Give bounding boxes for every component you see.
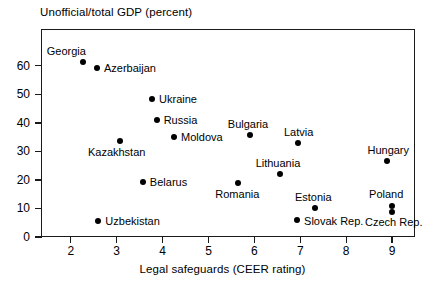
- x-axis-tick-label: 9: [377, 245, 407, 257]
- x-axis-tick-label: 8: [331, 245, 361, 257]
- chart-figure: Unofficial/total GDP (percent) 010203040…: [0, 0, 445, 287]
- x-axis-tick-label: 5: [193, 245, 223, 257]
- x-axis-tick-label: 3: [102, 245, 132, 257]
- x-axis-tick: [70, 237, 71, 243]
- x-axis: 23456789: [0, 0, 445, 287]
- x-axis-title: Legal safeguards (CEER rating): [0, 263, 445, 275]
- x-axis-tick: [254, 237, 255, 243]
- x-axis-tick-label: 2: [56, 245, 86, 257]
- x-axis-tick: [300, 237, 301, 243]
- x-axis-tick-label: 4: [148, 245, 178, 257]
- x-axis-tick-label: 6: [239, 245, 269, 257]
- x-axis-tick-label: 7: [285, 245, 315, 257]
- x-axis-tick: [162, 237, 163, 243]
- x-axis-tick: [346, 237, 347, 243]
- x-axis-tick: [116, 237, 117, 243]
- x-axis-tick: [391, 237, 392, 243]
- x-axis-tick: [208, 237, 209, 243]
